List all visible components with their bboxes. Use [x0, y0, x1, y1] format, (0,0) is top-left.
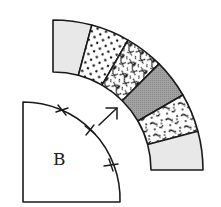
direction-arrow-icon: [99, 108, 117, 125]
quarter-circle-template-b: [23, 102, 120, 202]
template-label: B: [53, 149, 66, 169]
quilt-arc-diagram: B: [0, 0, 221, 207]
